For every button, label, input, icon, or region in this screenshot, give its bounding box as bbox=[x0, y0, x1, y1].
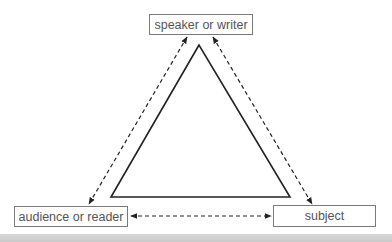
node-label: speaker or writer bbox=[154, 18, 247, 32]
node-speaker-or-writer: speaker or writer bbox=[149, 14, 253, 35]
node-label: audience or reader bbox=[19, 210, 124, 224]
edge-speaker-subject-arrow bbox=[213, 37, 312, 204]
node-subject: subject bbox=[273, 205, 376, 227]
node-label: subject bbox=[305, 209, 345, 223]
central-triangle bbox=[111, 45, 290, 197]
bottom-divider-bar bbox=[0, 234, 392, 242]
node-audience-or-reader: audience or reader bbox=[14, 206, 128, 227]
edge-speaker-audience-arrow bbox=[89, 37, 187, 204]
